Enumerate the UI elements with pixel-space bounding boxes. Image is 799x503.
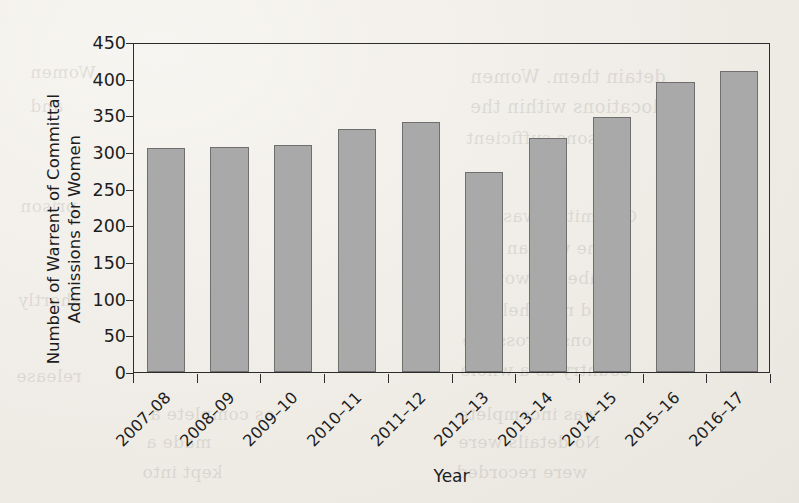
y-axis-tick-labels: 050100150200250300350400450 <box>78 0 126 503</box>
bar <box>593 117 631 372</box>
x-axis-tick-mark <box>452 374 453 383</box>
x-axis-tick-label: 2012–13 <box>430 388 492 450</box>
y-axis-tick-label: 400 <box>93 70 126 90</box>
bar <box>720 71 758 372</box>
x-axis-tick-mark <box>770 374 771 383</box>
y-axis-tick-label: 200 <box>93 216 126 236</box>
x-axis-tick-mark <box>133 374 134 383</box>
x-axis-tick-label: 2016–17 <box>685 388 747 450</box>
bar <box>338 129 376 372</box>
x-axis-tick-label: 2008–09 <box>176 388 238 450</box>
y-axis-tick-label: 150 <box>93 253 126 273</box>
x-axis-tick-mark <box>515 374 516 383</box>
bar <box>402 122 440 372</box>
x-axis-label: Year <box>133 466 770 486</box>
x-axis-tick-mark <box>706 374 707 383</box>
x-axis-tick-label: 2009–10 <box>239 388 301 450</box>
y-axis-tick-label: 350 <box>93 106 126 126</box>
bar <box>210 147 248 372</box>
x-axis-tick-mark <box>643 374 644 383</box>
x-axis-tick-label: 2011–12 <box>367 388 429 450</box>
y-axis-tick-label: 50 <box>104 326 126 346</box>
x-axis-tick-label: 2014–15 <box>558 388 620 450</box>
bar <box>656 82 694 372</box>
y-axis-tick-label: 100 <box>93 290 126 310</box>
bar-chart: Number of Warrent of Committal Admission… <box>0 0 799 503</box>
x-axis-tick-mark <box>579 374 580 383</box>
x-axis-tick-mark <box>197 374 198 383</box>
y-axis-tick-label: 450 <box>93 33 126 53</box>
x-axis-tick-mark <box>324 374 325 383</box>
x-axis-tick-mark <box>260 374 261 383</box>
bar <box>274 145 312 372</box>
x-axis-tick-label: 2015–16 <box>622 388 684 450</box>
bar <box>147 148 185 372</box>
bar <box>465 172 503 372</box>
x-axis-tick-label: 2010–11 <box>303 388 365 450</box>
x-axis-tick-label: 2013–14 <box>494 388 556 450</box>
bar <box>529 138 567 372</box>
y-axis-tick-label: 300 <box>93 143 126 163</box>
plot-area <box>133 43 770 373</box>
x-axis-tick-mark <box>388 374 389 383</box>
y-axis-tick-label: 0 <box>115 363 126 383</box>
y-axis-tick-label: 250 <box>93 180 126 200</box>
